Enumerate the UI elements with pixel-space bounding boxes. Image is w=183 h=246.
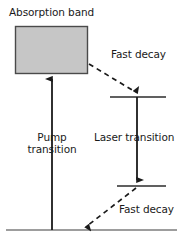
pump-transition-label-line2: transition <box>27 143 76 155</box>
absorption-band-label: Absorption band <box>9 6 94 18</box>
fast-decay-upper-arrow <box>89 64 136 92</box>
pump-transition-label-line1: Pump <box>37 131 66 143</box>
fast-decay-upper-label: Fast decay <box>111 48 166 60</box>
energy-level-diagram: Absorption band Fast decay Pump transiti… <box>0 0 183 246</box>
fast-decay-lower-label: Fast decay <box>119 203 174 215</box>
laser-transition-label: Laser transition <box>94 131 174 143</box>
pump-transition-label: Pump transition <box>21 131 83 155</box>
absorption-band-level <box>16 27 88 74</box>
